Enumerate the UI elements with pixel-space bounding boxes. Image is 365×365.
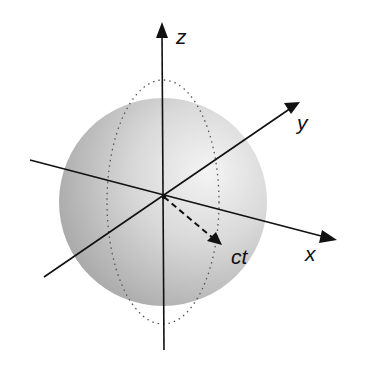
ct-label: ct <box>231 245 249 268</box>
y-axis-label: y <box>295 111 309 134</box>
x-axis-label: x <box>304 242 317 265</box>
z-axis-label: z <box>175 25 187 48</box>
x-arrowhead-icon <box>319 230 337 243</box>
origin-point <box>162 195 166 199</box>
z-arrowhead-icon <box>156 22 168 38</box>
sphere-diagram: z y x ct <box>0 0 365 365</box>
